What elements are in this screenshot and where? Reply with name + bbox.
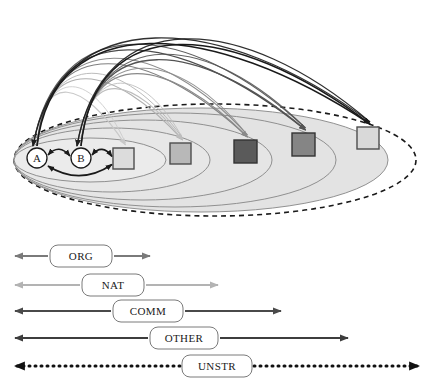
legend-label-other: OTHER [165, 332, 204, 344]
diagram-svg: ABORGNATCOMMOTHERUNSTR [0, 0, 431, 383]
target-square-sq3[interactable] [234, 140, 257, 163]
target-square-sq4[interactable] [292, 133, 315, 156]
target-square-sq5[interactable] [357, 127, 379, 149]
node-label-B: B [77, 152, 84, 164]
legend-label-nat: NAT [102, 279, 125, 291]
legend-label-comm: COMM [130, 305, 166, 317]
legend-label-unstr: UNSTR [198, 360, 236, 372]
target-square-sq1[interactable] [113, 148, 134, 169]
node-label-A: A [33, 152, 41, 164]
legend-label-org: ORG [69, 250, 93, 262]
diagram-canvas: ABORGNATCOMMOTHERUNSTR [0, 0, 431, 383]
target-square-sq2[interactable] [170, 143, 191, 164]
